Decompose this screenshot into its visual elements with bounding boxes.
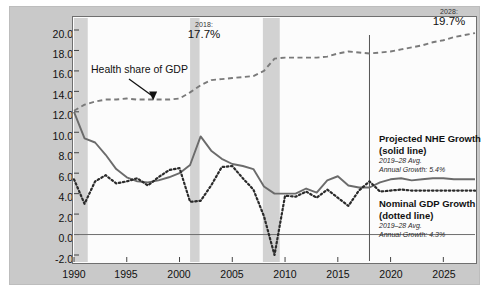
- legend-nhe-growth: Annual Growth: 5.4%: [379, 165, 481, 174]
- x-tick-label: 2025: [422, 268, 466, 280]
- x-tick-label: 2005: [210, 268, 254, 280]
- y-tick-label: 12.0: [27, 110, 73, 120]
- x-tick-label: 2020: [369, 268, 413, 280]
- y-tick-label: 20.0: [27, 29, 73, 39]
- y-tick-label: 0.0: [27, 233, 73, 243]
- legend-gdp-period: 2019–28 Avg.: [379, 221, 475, 230]
- y-tick-label: 18.0: [27, 49, 73, 59]
- legend-nhe-period: 2019–28 Avg.: [379, 156, 481, 165]
- y-tick-label: 16.0: [27, 69, 73, 79]
- x-tick-label: 2015: [316, 268, 360, 280]
- y-tick-label: 4.0: [27, 192, 73, 202]
- y-tick-label: 10.0: [27, 131, 73, 141]
- health-share-callout-label: Health share of GDP: [91, 63, 188, 75]
- x-tick-label: 1995: [104, 268, 148, 280]
- marker-2018-callout: 2018: 17.7%: [181, 21, 227, 40]
- chart-figure: Percent (%) 20.0 18.0 16.0 14.0 12.0 10.…: [0, 0, 489, 291]
- y-tick-label: 2.0: [27, 213, 73, 223]
- legend-nhe-title: Projected NHE Growth: [379, 133, 481, 145]
- x-tick-label: 2000: [157, 268, 201, 280]
- x-tick-label: 1990: [52, 268, 96, 280]
- legend-gdp-title: Nominal GDP Growth: [379, 198, 475, 210]
- marker-2018-label: 2018:: [181, 21, 227, 28]
- plot-panel: Health share of GDP 2018: 17.7% 2028: 19…: [72, 16, 477, 264]
- legend-nhe: Projected NHE Growth (solid line) 2019–2…: [379, 133, 481, 174]
- legend-gdp-style: (dotted line): [379, 210, 475, 222]
- y-tick-label: -2.0: [27, 254, 73, 264]
- marker-2028-value: 19.7%: [425, 15, 473, 27]
- legend-gdp: Nominal GDP Growth (dotted line) 2019–28…: [379, 198, 475, 239]
- marker-2018-value: 17.7%: [181, 28, 227, 40]
- y-tick-label: 6.0: [27, 172, 73, 182]
- x-tick-label: 2010: [263, 268, 307, 280]
- marker-2028-callout: 2028: 19.7%: [425, 8, 473, 27]
- health-share-arrow: [129, 79, 157, 101]
- y-tick-label: 14.0: [27, 90, 73, 100]
- marker-2028-label: 2028:: [425, 8, 473, 15]
- y-tick-label: 8.0: [27, 151, 73, 161]
- legend-nhe-style: (solid line): [379, 145, 481, 157]
- legend-gdp-growth: Annual Growth: 4.3%: [379, 230, 475, 239]
